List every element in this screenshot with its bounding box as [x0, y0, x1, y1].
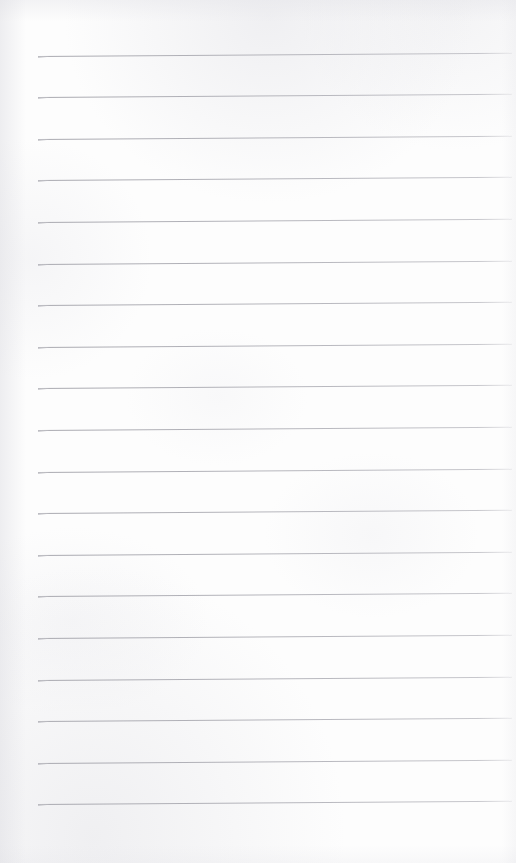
ruled-line	[38, 593, 512, 597]
ruled-line	[38, 552, 512, 556]
ruled-line	[38, 676, 512, 680]
scanned-page	[0, 0, 516, 863]
ruled-line	[38, 260, 512, 264]
ruled-line	[38, 427, 512, 431]
ruled-line	[38, 385, 512, 389]
ruled-line	[38, 468, 512, 472]
ruled-line	[38, 760, 512, 764]
ruled-line	[38, 801, 512, 805]
ruled-line	[38, 510, 512, 514]
ruled-line	[38, 635, 512, 639]
ruled-line	[38, 718, 512, 722]
ruled-line	[38, 52, 512, 56]
ruled-line	[38, 344, 512, 348]
ruled-line	[38, 136, 512, 140]
ruled-line	[38, 177, 512, 181]
ruled-line	[38, 219, 512, 223]
ruled-line	[38, 302, 512, 306]
ruled-lines-group	[0, 0, 516, 863]
ruled-line	[38, 94, 512, 98]
